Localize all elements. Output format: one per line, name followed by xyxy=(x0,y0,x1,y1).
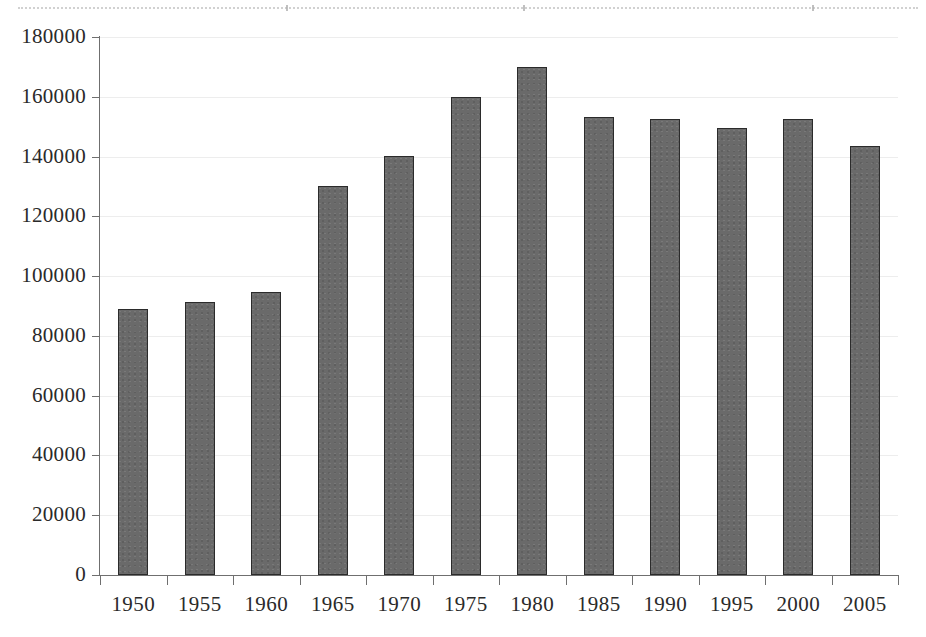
x-axis-tick xyxy=(100,576,101,585)
y-axis-tick-label: 100000 xyxy=(0,265,86,286)
x-axis-tick xyxy=(632,576,633,585)
gridline xyxy=(100,336,898,337)
y-axis-tick xyxy=(92,157,100,158)
x-axis-tick xyxy=(765,576,766,585)
x-axis-tick xyxy=(433,576,434,585)
y-axis-tick-label: 80000 xyxy=(0,325,86,346)
bar xyxy=(650,119,680,575)
gridline xyxy=(100,455,898,456)
y-axis-tick xyxy=(92,97,100,98)
x-axis-tick xyxy=(566,576,567,585)
bar xyxy=(717,128,747,575)
scan-edge-artifact xyxy=(18,7,918,11)
scan-edge-tick xyxy=(286,5,288,11)
gridline xyxy=(100,97,898,98)
x-axis-tick xyxy=(233,576,234,585)
gridline xyxy=(100,276,898,277)
bar xyxy=(451,97,481,575)
bar xyxy=(850,146,880,575)
gridline xyxy=(100,157,898,158)
gridline xyxy=(100,515,898,516)
y-axis-line xyxy=(99,36,100,576)
gridline xyxy=(100,37,898,38)
y-axis-tick xyxy=(92,515,100,516)
bar xyxy=(783,119,813,575)
y-axis-tick xyxy=(92,276,100,277)
y-axis-tick-label: 40000 xyxy=(0,444,86,465)
bar xyxy=(318,186,348,575)
y-axis-tick xyxy=(92,575,100,576)
gridline xyxy=(100,216,898,217)
x-axis-tick xyxy=(300,576,301,585)
y-axis-tick-label: 0 xyxy=(0,564,86,585)
x-axis-tick xyxy=(499,576,500,585)
x-axis-tick-label: 2005 xyxy=(825,592,905,616)
y-axis-tick xyxy=(92,396,100,397)
y-axis-tick xyxy=(92,216,100,217)
y-axis-tick xyxy=(92,37,100,38)
gridline xyxy=(100,396,898,397)
x-axis-tick xyxy=(699,576,700,585)
bar xyxy=(185,302,215,575)
bar-chart-figure: 0200004000060000800001000001200001400001… xyxy=(0,0,926,637)
y-axis-tick-label: 120000 xyxy=(0,205,86,226)
y-axis-tick-label: 20000 xyxy=(0,504,86,525)
x-axis-tick xyxy=(832,576,833,585)
x-axis-tick xyxy=(167,576,168,585)
plot-area xyxy=(100,37,898,575)
scan-edge-tick xyxy=(523,5,525,11)
y-axis-tick-label: 180000 xyxy=(0,26,86,47)
bar xyxy=(118,309,148,575)
x-axis-tick xyxy=(366,576,367,585)
y-axis-tick xyxy=(92,455,100,456)
scan-edge-tick xyxy=(812,5,814,11)
bar xyxy=(517,67,547,575)
y-axis-tick-label: 60000 xyxy=(0,385,86,406)
y-axis-tick xyxy=(92,336,100,337)
bar xyxy=(584,117,614,575)
x-axis-tick xyxy=(898,576,899,585)
bar xyxy=(251,292,281,575)
bar xyxy=(384,156,414,575)
y-axis-tick-label: 140000 xyxy=(0,146,86,167)
y-axis-tick-label: 160000 xyxy=(0,86,86,107)
